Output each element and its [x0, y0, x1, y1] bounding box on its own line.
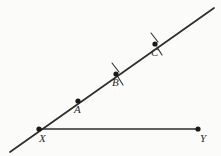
point-label-a: A — [74, 104, 81, 115]
point-x-dot — [36, 126, 41, 131]
geometry-diagram: X A B C Y — [0, 0, 221, 156]
point-y-dot — [195, 126, 200, 131]
point-label-c: C — [151, 47, 158, 58]
tick-mark-c-upper — [151, 33, 158, 42]
point-label-x: X — [39, 133, 46, 144]
point-label-b: B — [112, 77, 119, 88]
tick-mark-b-upper — [112, 63, 119, 72]
geometry-canvas — [0, 0, 221, 156]
point-label-y: Y — [200, 133, 206, 144]
